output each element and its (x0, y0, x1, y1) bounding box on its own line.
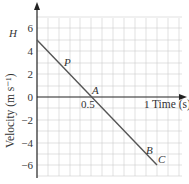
x-axis-label: Time (s) (152, 98, 189, 111)
x-tick-0-5: 0.5 (81, 98, 95, 110)
x-tick-1: 1 (144, 98, 150, 110)
y-tick-minus4: −4 (21, 137, 33, 149)
y-axis-arrow-icon (34, 2, 40, 10)
y-tick-0: 0 (28, 91, 34, 103)
y-tick-minus6: −6 (21, 159, 33, 171)
y-tick-minus2: −2 (21, 114, 33, 126)
velocity-line (37, 40, 157, 165)
point-label-a: A (91, 84, 99, 96)
point-label-p: P (63, 56, 71, 68)
velocity-time-chart: 6 4 2 0 −2 −4 −6 0.5 1 Time (s) Velocity… (0, 0, 189, 184)
point-label-b: B (146, 144, 153, 156)
y-tick-6: 6 (28, 22, 34, 34)
y-axis (34, 2, 40, 178)
y-tick-2: 2 (28, 68, 34, 80)
y-axis-label: Velocity (m s⁻¹) (4, 73, 17, 148)
point-label-h: H (8, 27, 18, 39)
point-label-c: C (158, 153, 166, 165)
y-tick-4: 4 (28, 45, 34, 57)
